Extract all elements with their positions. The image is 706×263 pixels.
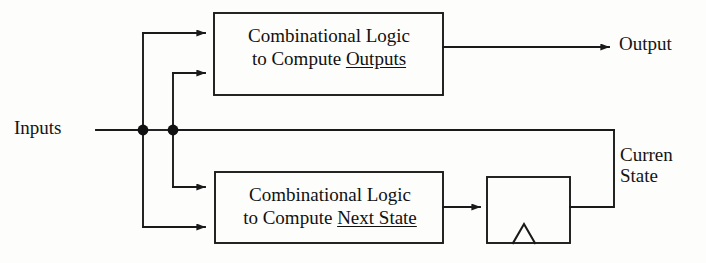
- state-feedback-wire: [570, 130, 614, 207]
- output-logic-label: Combinational Logic to Compute Outputs: [215, 24, 443, 70]
- current-state-label: Curren State: [620, 144, 673, 187]
- current-state-label-line2: State: [620, 165, 673, 186]
- input-junction-dot: [138, 125, 149, 136]
- next-state-logic-label: Combinational Logic to Compute Next Stat…: [216, 183, 444, 229]
- state-junction-dot: [168, 125, 179, 136]
- output-logic-line2-prefix: to Compute: [252, 48, 346, 69]
- output-label: Output: [619, 33, 672, 54]
- clock-triangle-icon: [513, 224, 535, 243]
- next-state-logic-line2: to Compute Next State: [216, 206, 444, 229]
- inputs-label: Inputs: [14, 117, 62, 138]
- next-state-logic-line1: Combinational Logic: [216, 183, 444, 206]
- output-logic-line2: to Compute Outputs: [215, 47, 443, 70]
- next-state-logic-line2-prefix: to Compute: [243, 207, 337, 228]
- current-state-label-line1: Curren: [620, 144, 673, 165]
- output-logic-line2-emphasis: Outputs: [346, 48, 406, 69]
- output-logic-line1: Combinational Logic: [215, 24, 443, 47]
- next-state-logic-line2-emphasis: Next State: [337, 207, 417, 228]
- fsm-block-diagram: Inputs Output Curren State Combinational…: [0, 0, 706, 263]
